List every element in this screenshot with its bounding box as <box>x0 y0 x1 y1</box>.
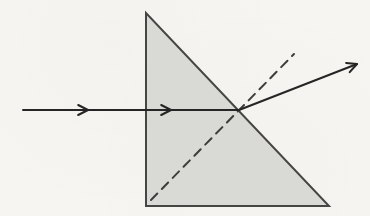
refracted-ray <box>239 64 357 110</box>
diagram-canvas <box>0 0 370 216</box>
prism-refraction-diagram <box>0 0 370 216</box>
